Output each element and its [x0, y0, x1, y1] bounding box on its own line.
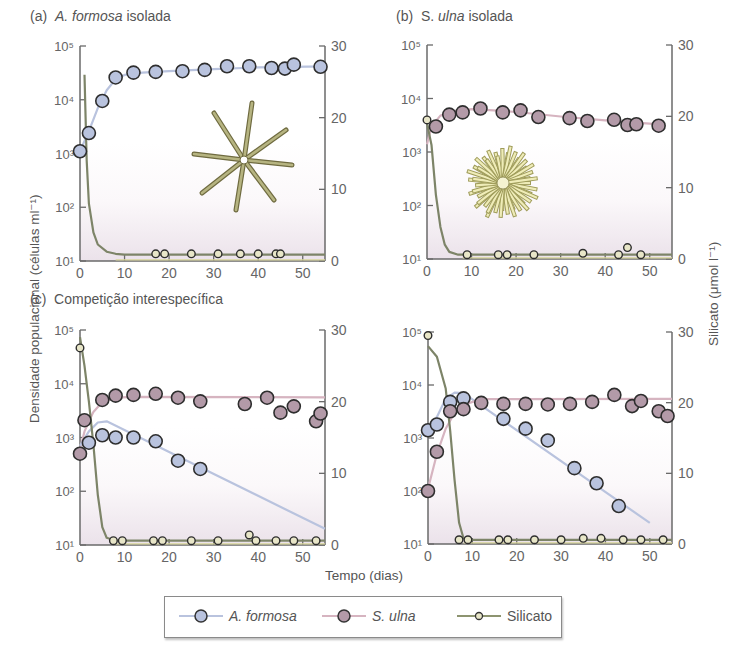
data-point	[198, 63, 211, 76]
data-point	[287, 400, 300, 413]
panel-a-title: (a) A. formosa isolada	[30, 8, 171, 24]
data-point	[637, 536, 645, 544]
data-point	[127, 66, 140, 79]
data-point	[630, 118, 643, 131]
data-point	[109, 431, 122, 444]
data-point	[568, 462, 581, 475]
svg-text:10: 10	[678, 180, 694, 196]
svg-text:0: 0	[423, 263, 431, 279]
data-point	[82, 436, 95, 449]
data-point	[519, 397, 532, 410]
data-point	[563, 112, 576, 125]
data-point	[287, 58, 300, 71]
data-point	[261, 391, 274, 404]
data-point	[243, 60, 256, 73]
data-point	[590, 477, 603, 490]
data-point	[312, 537, 320, 545]
svg-text:10¹: 10¹	[402, 252, 421, 267]
svg-text:30: 30	[553, 263, 569, 279]
data-point	[637, 251, 645, 259]
x-axis-label: Tempo (dias)	[325, 568, 403, 583]
svg-text:0: 0	[678, 536, 686, 552]
data-point	[74, 447, 87, 460]
data-point	[463, 251, 471, 259]
panel-a: 10¹10²10³10⁴10⁵010203001020304050	[54, 38, 347, 281]
data-point	[110, 537, 118, 545]
svg-text:10: 10	[678, 465, 694, 481]
data-point	[474, 102, 487, 115]
data-point	[608, 388, 621, 401]
data-point	[608, 113, 621, 126]
data-point	[579, 249, 587, 257]
data-point	[82, 127, 95, 140]
svg-text:30: 30	[678, 37, 694, 53]
data-point	[581, 114, 594, 127]
data-point	[119, 537, 127, 545]
data-point	[422, 485, 435, 498]
legend-item-silicato: Silicato	[457, 608, 552, 624]
data-point	[430, 418, 443, 431]
data-point	[464, 536, 472, 544]
data-point	[127, 431, 140, 444]
data-point	[532, 111, 545, 124]
panel-a-prefix: (a)	[30, 8, 47, 24]
svg-text:40: 40	[250, 265, 266, 281]
svg-text:10¹: 10¹	[55, 538, 74, 553]
data-point	[612, 500, 625, 513]
s-ulna-marker-icon	[322, 608, 366, 624]
data-point	[495, 536, 503, 544]
legend-item-s-ulna: S. ulna	[322, 608, 416, 624]
svg-text:0: 0	[678, 251, 686, 267]
legend: A. formosa S. ulna Silicato	[164, 596, 562, 638]
svg-text:10⁴: 10⁴	[402, 378, 422, 393]
data-point	[652, 119, 665, 132]
data-point	[661, 410, 674, 423]
svg-text:10³: 10³	[55, 147, 74, 162]
data-point	[127, 388, 140, 401]
svg-text:20: 20	[331, 110, 347, 126]
svg-text:10: 10	[465, 548, 481, 564]
svg-text:10⁵: 10⁵	[54, 323, 74, 338]
svg-text:10⁴: 10⁴	[54, 377, 74, 392]
legend-label-silicato: Silicato	[507, 608, 552, 624]
a-formosa-marker-icon	[179, 608, 223, 624]
panel-b-species: ulna	[438, 8, 464, 24]
silicato-marker-icon	[457, 608, 501, 624]
data-point	[444, 405, 457, 418]
svg-text:10⁴: 10⁴	[54, 93, 74, 108]
panel-b-title: (b) S. ulna isolada	[396, 8, 513, 24]
svg-text:10³: 10³	[55, 431, 74, 446]
svg-text:10³: 10³	[403, 431, 422, 446]
data-point	[503, 251, 511, 259]
panel-b-suffix: isolada	[465, 8, 513, 24]
data-point	[96, 393, 109, 406]
svg-text:20: 20	[161, 549, 177, 565]
data-point	[109, 389, 122, 402]
data-point	[530, 251, 538, 259]
data-point	[152, 250, 160, 258]
svg-text:10⁵: 10⁵	[401, 38, 421, 53]
svg-text:10¹: 10¹	[403, 537, 422, 552]
svg-text:0: 0	[76, 265, 84, 281]
data-point	[214, 250, 222, 258]
svg-text:10²: 10²	[402, 199, 421, 214]
svg-text:30: 30	[553, 548, 569, 564]
svg-text:50: 50	[295, 549, 311, 565]
data-point	[96, 429, 109, 442]
data-point	[265, 61, 278, 74]
svg-text:10²: 10²	[55, 200, 74, 215]
data-point	[221, 60, 234, 73]
svg-text:10³: 10³	[402, 145, 421, 160]
data-point	[277, 250, 285, 258]
data-point	[456, 106, 469, 119]
data-point	[172, 454, 185, 467]
data-point	[429, 120, 442, 133]
data-point	[290, 537, 298, 545]
svg-text:10⁵: 10⁵	[54, 39, 74, 54]
svg-text:20: 20	[161, 265, 177, 281]
svg-text:30: 30	[678, 324, 694, 340]
svg-text:10: 10	[464, 263, 480, 279]
svg-text:40: 40	[250, 549, 266, 565]
y-axis-right-label: Silicato (μmol l⁻¹)	[705, 242, 721, 346]
data-point	[78, 414, 91, 427]
